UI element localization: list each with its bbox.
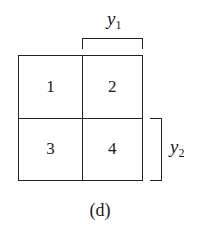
cell-3: 3: [18, 118, 83, 182]
cell-2: 2: [82, 55, 144, 119]
cell-1: 1: [18, 55, 83, 119]
y1-bracket: [82, 38, 143, 49]
karnaugh-grid: 1 2 3 4: [18, 55, 143, 181]
y2-label: y2: [170, 136, 184, 161]
y2-bracket: [150, 118, 162, 181]
cell-4: 4: [82, 118, 144, 182]
y1-label: y1: [107, 8, 121, 33]
figure-caption: (d): [0, 200, 200, 221]
